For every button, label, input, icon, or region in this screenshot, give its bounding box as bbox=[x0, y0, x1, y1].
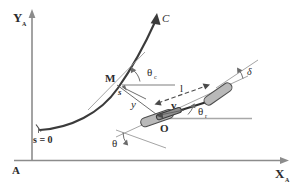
theta-arrowhead bbox=[123, 139, 128, 145]
origin-label-a: A bbox=[12, 164, 20, 176]
theta-r-group: θ r bbox=[188, 103, 207, 119]
vehicle-reference-lines-group bbox=[116, 60, 258, 148]
theta-r-label: θ bbox=[198, 105, 203, 117]
vehicle-group: O bbox=[139, 81, 233, 134]
axes-group bbox=[14, 9, 289, 164]
theta-label: θ bbox=[112, 137, 117, 149]
theta-r-sublabel: r bbox=[205, 113, 207, 119]
wheelbase-label: l bbox=[180, 82, 183, 94]
y-axis-arrowhead bbox=[29, 9, 36, 18]
delta-label: δ bbox=[247, 66, 252, 77]
axis-labels-group: Y A X A A bbox=[12, 10, 290, 183]
arc-length-arrowhead bbox=[122, 85, 127, 90]
vehicle-origin-label: O bbox=[160, 122, 169, 134]
theta-lower-ray bbox=[116, 130, 166, 148]
wheelbase-arrowhead-left bbox=[155, 100, 162, 106]
lateral-error-label: y bbox=[130, 98, 136, 110]
tangent-line-at-m bbox=[88, 52, 145, 110]
arc-start-label: s = 0 bbox=[33, 134, 53, 145]
curve-label-c: C bbox=[162, 12, 170, 24]
wheelbase-arrowhead-right bbox=[203, 84, 210, 90]
y-axis-sublabel: A bbox=[22, 21, 27, 27]
path-curve-arrowhead bbox=[151, 13, 161, 25]
point-m-label: M bbox=[105, 72, 116, 84]
steering-angle-group: δ bbox=[237, 66, 252, 79]
lateral-error-line bbox=[117, 85, 160, 117]
lateral-error-group: y bbox=[117, 85, 160, 117]
figure-container: Y A X A A C s = 0 M θ bbox=[0, 0, 302, 188]
theta-c-label: θ bbox=[147, 66, 152, 78]
x-axis-sublabel: A bbox=[285, 177, 290, 183]
velocity-label: v bbox=[171, 99, 177, 111]
x-axis-label: X bbox=[275, 166, 285, 181]
kinematics-diagram: Y A X A A C s = 0 M θ bbox=[0, 0, 302, 188]
x-axis-arrowhead bbox=[280, 157, 289, 164]
steering-construction-line bbox=[216, 60, 258, 88]
theta-c-sublabel: c bbox=[154, 74, 157, 80]
arc-start-group: s = 0 bbox=[33, 125, 53, 146]
